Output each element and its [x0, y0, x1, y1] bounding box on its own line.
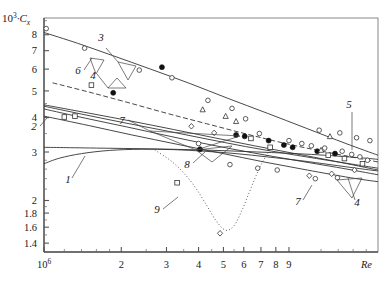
marker-filled-circle: [281, 143, 286, 148]
marker-open-diamond: [189, 123, 194, 129]
marker-open-circle: [349, 152, 354, 157]
marker-open-circle: [340, 149, 345, 154]
y-tick-label-6: 6: [32, 64, 37, 75]
pointer-triangle-0: [118, 62, 136, 80]
marker-open-triangle: [200, 107, 205, 112]
marker-open-circle: [228, 162, 233, 167]
marker-filled-circle: [290, 145, 295, 150]
leader-line-9: [163, 197, 178, 209]
marker-open-circle: [309, 143, 314, 148]
marker-open-triangle: [327, 134, 332, 139]
curve-label-1: 1: [65, 173, 71, 185]
marker-filled-circle: [333, 151, 338, 156]
x-tick-label-5: 5: [221, 259, 226, 270]
curve-label-4b: 4: [354, 196, 360, 208]
marker-open-circle: [365, 158, 370, 163]
marker-open-circle: [255, 166, 260, 171]
curve-6: [44, 109, 378, 175]
drag-coefficient-chart: 87654321.81.61.410623456789103·CxRe12345…: [0, 0, 391, 286]
marker-open-circle: [206, 98, 211, 103]
marker-filled-circle: [266, 138, 271, 143]
x-tick-label-7: 7: [258, 259, 263, 270]
marker-open-circle: [170, 75, 175, 80]
marker-open-square: [342, 156, 347, 161]
marker-open-square: [360, 161, 365, 166]
marker-open-circle: [230, 106, 235, 111]
curve-label-4a: 4: [90, 69, 96, 81]
curve-label-2: 2: [31, 120, 37, 132]
marker-open-circle: [137, 68, 142, 73]
marker-open-diamond: [329, 171, 334, 177]
x-tick-label-10e6: 106: [37, 257, 52, 270]
marker-filled-circle: [111, 90, 116, 95]
marker-open-triangle: [233, 119, 238, 124]
marker-open-circle: [82, 46, 87, 51]
marker-open-square: [62, 115, 67, 120]
pointer-triangle-4: [150, 131, 240, 150]
y-tick-label-7: 7: [32, 45, 37, 56]
marker-open-circle: [338, 131, 343, 136]
marker-open-circle: [358, 155, 363, 160]
curve-9: [155, 145, 273, 230]
plot-frame: [44, 18, 378, 252]
pointer-triangle-5: [337, 178, 362, 198]
marker-open-square: [326, 153, 331, 158]
marker-open-diamond: [307, 173, 312, 179]
marker-open-square: [268, 145, 273, 150]
marker-open-circle: [243, 117, 248, 122]
curve-7: [44, 116, 378, 182]
marker-open-triangle: [223, 113, 228, 118]
y-tick-label-5: 5: [32, 86, 37, 97]
y-tick-label-1.6: 1.6: [24, 222, 37, 233]
leader-line-0: [72, 156, 85, 178]
leader-line-2: [106, 48, 118, 62]
curve-label-7b: 7: [295, 195, 301, 207]
curve-label-5: 5: [346, 98, 352, 110]
curve-label-8: 8: [184, 158, 190, 170]
y-tick-label-1.4: 1.4: [24, 238, 38, 249]
x-tick-label-4: 4: [196, 259, 202, 270]
marker-open-circle: [257, 131, 262, 136]
marker-open-circle: [44, 26, 49, 31]
marker-open-circle: [287, 138, 292, 143]
curve-label-7a: 7: [119, 114, 125, 126]
leader-line-8: [193, 152, 205, 163]
marker-open-diamond: [217, 231, 222, 237]
marker-open-circle: [335, 175, 340, 180]
marker-open-square: [73, 114, 78, 119]
x-tick-label-9: 9: [286, 259, 291, 270]
pointer-triangle-2: [108, 78, 126, 88]
marker-open-circle: [275, 168, 280, 173]
marker-open-circle: [317, 128, 322, 133]
curve-label-6: 6: [75, 64, 81, 76]
chart-root: 87654321.81.61.410623456789103·CxRe12345…: [0, 0, 391, 286]
y-tick-label-3: 3: [32, 147, 37, 158]
y-tick-label-8: 8: [32, 29, 37, 40]
curve-label-3: 3: [97, 31, 104, 43]
x-tick-label-3: 3: [164, 259, 169, 270]
x-tick-label-8: 8: [273, 259, 278, 270]
x-axis-title: Re: [360, 259, 372, 270]
marker-open-circle: [354, 135, 359, 140]
y-tick-label-2: 2: [32, 195, 37, 206]
x-tick-label-6: 6: [241, 259, 246, 270]
marker-open-circle: [196, 141, 201, 146]
marker-open-square: [175, 180, 180, 185]
marker-open-circle: [322, 146, 327, 151]
marker-filled-circle: [242, 134, 247, 139]
marker-open-square: [249, 136, 254, 141]
marker-open-circle: [300, 141, 305, 146]
curve-label-9: 9: [154, 203, 160, 215]
y-tick-label-1.8: 1.8: [24, 208, 37, 219]
marker-filled-circle: [159, 65, 164, 70]
leader-line-3: [97, 74, 108, 88]
y-axis-title: 103·Cx: [2, 11, 31, 27]
marker-open-square: [89, 83, 94, 88]
marker-open-circle: [368, 138, 373, 143]
marker-open-circle: [313, 176, 318, 181]
leader-line-7: [303, 185, 312, 200]
x-tick-label-2: 2: [119, 259, 124, 270]
